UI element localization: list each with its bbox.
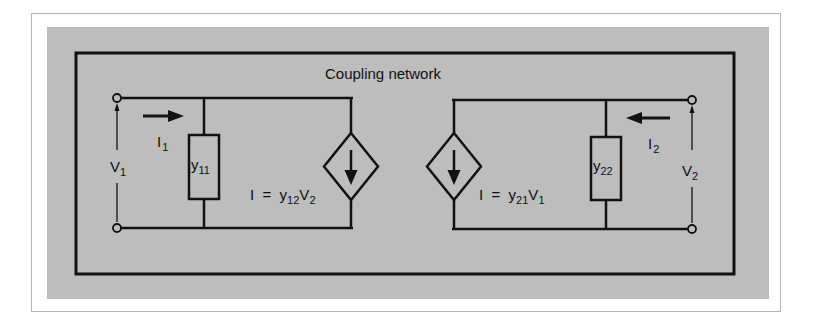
port1-circuit bbox=[113, 94, 378, 232]
port1-source-equation: I = y12V2 bbox=[250, 186, 316, 206]
port1-top-terminal bbox=[113, 94, 121, 102]
port1-current-label: I1 bbox=[157, 133, 168, 153]
port2-current-label: I2 bbox=[648, 135, 659, 155]
coupling-network-box bbox=[76, 53, 734, 274]
port2-bottom-terminal bbox=[688, 225, 696, 233]
port2-source-equation: I = y21V1 bbox=[479, 186, 545, 206]
port1-voltage-label: V1 bbox=[110, 158, 126, 178]
port2-current-arrow-icon bbox=[626, 112, 642, 124]
circuit-diagram: Coupling network I1 V1 y11 I = y12V2 bbox=[0, 0, 814, 327]
coupling-network-label: Coupling network bbox=[325, 65, 441, 82]
port2-circuit bbox=[427, 96, 696, 233]
port1-current-arrow-icon bbox=[168, 110, 184, 122]
port2-top-terminal bbox=[688, 96, 696, 104]
port1-bottom-terminal bbox=[113, 224, 121, 232]
port2-voltage-label: V2 bbox=[682, 162, 698, 182]
